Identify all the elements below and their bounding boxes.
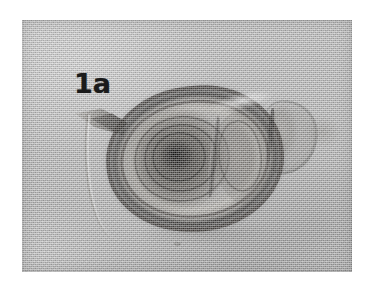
figure-label: 1a	[74, 70, 111, 97]
photomicrograph-plate: 1a	[22, 20, 352, 272]
plate-vignette	[22, 20, 352, 272]
figure-page: 1a	[0, 0, 373, 288]
